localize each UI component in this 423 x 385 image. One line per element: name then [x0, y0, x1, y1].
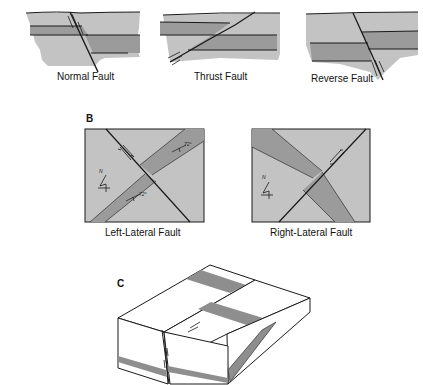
normal-fault-diagram	[26, 12, 140, 72]
dip-label-upper: 72°	[184, 141, 192, 147]
normal-fault-label: Normal Fault	[57, 71, 114, 82]
thrust-fault-label: Thrust Fault	[194, 71, 248, 82]
fault-diagram: Normal Fault Thrust Fault Reverse Fault …	[0, 0, 423, 385]
reverse-fault-diagram	[306, 12, 418, 80]
panel-b-letter: B	[86, 113, 93, 124]
thrust-fault-diagram	[160, 12, 280, 65]
svg-text:N: N	[99, 168, 103, 174]
normal-fault-dark-right	[85, 35, 140, 53]
reverse-fault-dark-right	[362, 31, 418, 49]
block-diagram	[118, 265, 310, 384]
svg-text:N: N	[262, 174, 266, 180]
left-lateral-fault-diagram: 72° 72° N	[85, 129, 204, 222]
reverse-fault-dark-left	[310, 43, 372, 61]
dip-label-lower: 72°	[139, 191, 147, 197]
reverse-fault-label: Reverse Fault	[311, 73, 373, 84]
left-lateral-fault-label: Left-Lateral Fault	[105, 227, 181, 238]
right-lateral-fault-diagram: N	[252, 129, 370, 222]
right-lateral-fault-label: Right-Lateral Fault	[270, 227, 352, 238]
panel-c-letter: C	[117, 278, 124, 289]
